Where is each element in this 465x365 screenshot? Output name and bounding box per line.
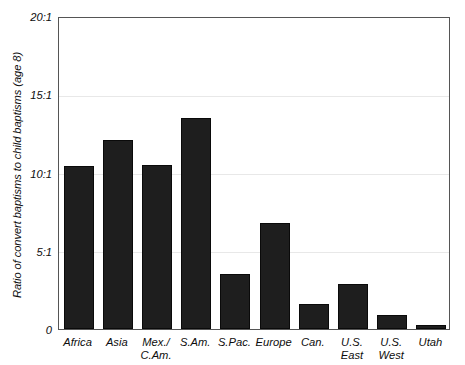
bar-chart: Ratio of convert baptisms to child bapti…	[0, 0, 465, 365]
bar	[103, 140, 133, 329]
bar	[416, 325, 446, 329]
bar	[142, 165, 172, 329]
y-axis-tick-label: 15:1	[2, 88, 52, 102]
bar	[299, 304, 329, 329]
y-axis-tick-label: 5:1	[2, 245, 52, 259]
bar	[181, 118, 211, 329]
x-axis-tick-label: Utah	[405, 336, 456, 349]
plot-area	[58, 17, 450, 330]
bar	[64, 166, 94, 329]
bar	[260, 223, 290, 329]
bar	[377, 315, 407, 329]
gridline	[59, 96, 449, 97]
bar	[220, 274, 250, 329]
y-axis-tick-label: 20:1	[2, 10, 52, 24]
y-axis-tick-label: 10:1	[2, 167, 52, 181]
bar	[338, 284, 368, 329]
y-axis-tick-label: 0	[2, 323, 52, 337]
